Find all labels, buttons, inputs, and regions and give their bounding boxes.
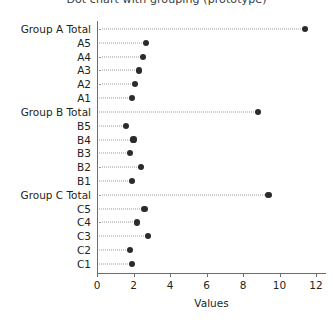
- leader-line: [99, 84, 133, 85]
- dot-chart: Dot chart with grouping (prototype) Grou…: [0, 0, 333, 334]
- x-tick-mark: [134, 273, 135, 277]
- leader-line: [99, 139, 132, 140]
- category-label: A4: [77, 51, 91, 62]
- leader-line: [99, 250, 128, 251]
- leader-line: [99, 111, 256, 112]
- category-label: C4: [77, 217, 91, 228]
- x-tick-label: 8: [240, 279, 247, 291]
- leader-line: [99, 181, 130, 182]
- x-tick-label: 2: [130, 279, 137, 291]
- data-point: [138, 164, 144, 170]
- leader-line: [99, 263, 130, 264]
- data-point: [255, 109, 261, 115]
- x-axis-line: [97, 273, 326, 274]
- data-point: [143, 40, 149, 46]
- x-tick-label: 0: [94, 279, 101, 291]
- leader-line: [99, 42, 144, 43]
- data-point: [127, 247, 133, 253]
- leader-line: [99, 153, 128, 154]
- x-axis-title: Values: [97, 297, 326, 309]
- category-label: C1: [77, 258, 91, 269]
- data-point: [130, 136, 136, 142]
- chart-title: Dot chart with grouping (prototype): [0, 0, 333, 6]
- data-point: [302, 26, 308, 32]
- category-label: C3: [77, 231, 91, 242]
- category-label: C2: [77, 245, 91, 256]
- x-tick-mark: [316, 273, 317, 277]
- leader-line: [99, 29, 303, 30]
- category-label: A3: [77, 65, 91, 76]
- x-tick-mark: [280, 273, 281, 277]
- leader-line: [99, 208, 142, 209]
- x-tick-label: 12: [309, 279, 322, 291]
- group-total-label: Group C Total: [21, 189, 92, 200]
- x-tick-label: 6: [203, 279, 210, 291]
- leader-line: [99, 98, 130, 99]
- data-point: [141, 206, 147, 212]
- data-point: [145, 233, 151, 239]
- leader-line: [99, 56, 141, 57]
- plot-area: Group A TotalA5A4A3A2A1Group B TotalB5B4…: [97, 22, 327, 272]
- group-total-label: Group B Total: [21, 106, 91, 117]
- category-label: A2: [77, 79, 91, 90]
- leader-line: [99, 167, 139, 168]
- data-point: [123, 123, 129, 129]
- leader-line: [99, 70, 137, 71]
- leader-line: [99, 194, 267, 195]
- category-label: B1: [77, 176, 91, 187]
- x-tick-mark: [243, 273, 244, 277]
- data-point: [265, 192, 271, 198]
- leader-line: [99, 236, 146, 237]
- data-point: [134, 219, 140, 225]
- group-total-label: Group A Total: [21, 24, 91, 35]
- data-point: [136, 67, 142, 73]
- category-label: B3: [77, 148, 91, 159]
- data-point: [132, 81, 138, 87]
- category-label: B4: [77, 134, 91, 145]
- x-tick-label: 4: [167, 279, 174, 291]
- data-point: [129, 261, 135, 267]
- data-point: [140, 54, 146, 60]
- category-label: B2: [77, 162, 91, 173]
- x-tick-mark: [97, 273, 98, 277]
- leader-line: [99, 125, 124, 126]
- category-label: A5: [77, 37, 91, 48]
- data-point: [129, 95, 135, 101]
- x-tick-label: 10: [273, 279, 286, 291]
- data-point: [129, 178, 135, 184]
- x-tick-mark: [207, 273, 208, 277]
- data-point: [127, 150, 133, 156]
- category-label: A1: [77, 93, 91, 104]
- category-label: B5: [77, 120, 91, 131]
- category-label: C5: [77, 203, 91, 214]
- leader-line: [99, 222, 135, 223]
- x-tick-mark: [170, 273, 171, 277]
